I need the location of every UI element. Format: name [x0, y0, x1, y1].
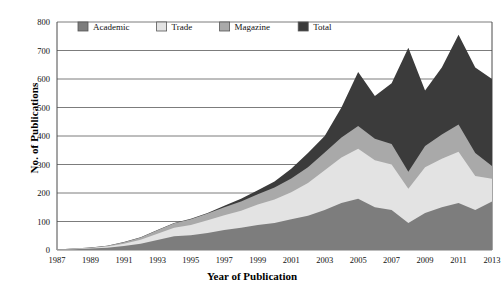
y-tick-label: 800	[37, 17, 50, 27]
legend-label-magazine: Magazine	[235, 22, 270, 32]
x-tick-label: 1997	[216, 255, 233, 265]
legend-label-academic: Academic	[93, 22, 129, 32]
legend-swatch-magazine	[220, 22, 230, 31]
x-tick-label: 2011	[450, 255, 467, 265]
legend-label-total: Total	[313, 22, 332, 32]
x-tick-label: 1995	[182, 255, 199, 265]
legend-swatch-total	[298, 22, 308, 31]
publications-area-chart: No. of Publications 01002003004005006007…	[0, 0, 504, 295]
x-tick-label: 2007	[383, 255, 400, 265]
x-tick-label: 1993	[149, 255, 166, 265]
x-axis-title: Year of Publication	[0, 270, 504, 282]
legend-label-trade: Trade	[172, 22, 193, 32]
x-tick-label: 1991	[115, 255, 132, 265]
x-tick-label: 1999	[249, 255, 266, 265]
y-axis-title: No. of Publications	[28, 48, 40, 208]
legend-swatch-trade	[157, 22, 167, 31]
x-axis-tick-labels: 1987198919911993199519971999200120032005…	[49, 255, 501, 265]
x-tick-label: 2003	[316, 255, 333, 265]
x-tick-label: 2013	[484, 255, 501, 265]
x-tick-label: 1989	[82, 255, 99, 265]
chart-canvas: 0100200300400500600700800 19871989199119…	[0, 0, 504, 295]
y-tick-label: 0	[46, 245, 50, 255]
x-tick-label: 2005	[350, 255, 367, 265]
x-tick-label: 2001	[283, 255, 300, 265]
chart-legend: AcademicTradeMagazineTotal	[78, 22, 332, 32]
x-tick-label: 1987	[49, 255, 66, 265]
y-tick-label: 100	[37, 217, 50, 227]
x-tick-label: 2009	[417, 255, 434, 265]
legend-swatch-academic	[78, 22, 88, 31]
series-areas-group	[57, 35, 492, 250]
